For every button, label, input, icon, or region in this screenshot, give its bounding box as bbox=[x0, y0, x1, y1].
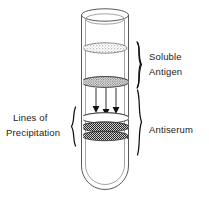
test-tube bbox=[82, 9, 129, 190]
antiserum-label: Antiserum bbox=[149, 124, 193, 135]
tube-rim-outer bbox=[82, 9, 129, 21]
lines-of-precipitation-brace bbox=[72, 107, 76, 146]
lines-of-precipitation-label-line1: Lines of bbox=[13, 112, 48, 123]
soluble-antigen-band-lower bbox=[81, 77, 129, 88]
precipitation-band-2 bbox=[81, 122, 129, 132]
immunodiffusion-diagram: Soluble Antigen Antiserum Lines of Preci… bbox=[0, 0, 209, 202]
antiserum-brace bbox=[138, 90, 142, 155]
precipitation-band-3 bbox=[82, 131, 128, 140]
soluble-antigen-label-line1: Soluble bbox=[149, 51, 182, 62]
tube-outer-wall bbox=[82, 15, 129, 189]
soluble-antigen-label-line2: Antigen bbox=[149, 66, 182, 77]
diffusion-arrows bbox=[93, 88, 120, 116]
lines-of-precipitation-label: Lines of Precipitation bbox=[6, 112, 60, 138]
diagram-canvas: Soluble Antigen Antiserum Lines of Preci… bbox=[0, 0, 209, 202]
soluble-antigen-band-upper bbox=[83, 43, 127, 53]
lines-of-precipitation-label-line2: Precipitation bbox=[6, 127, 60, 138]
tube-contents bbox=[81, 43, 129, 141]
antiserum-label-line1: Antiserum bbox=[149, 124, 193, 135]
tube-rim-inner bbox=[86, 14, 125, 24]
soluble-antigen-label: Soluble Antigen bbox=[149, 51, 182, 77]
